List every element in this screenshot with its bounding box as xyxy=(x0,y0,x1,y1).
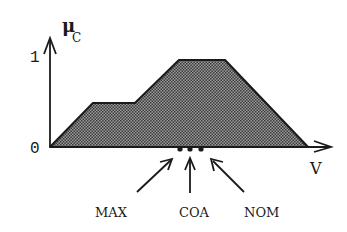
coa-dot xyxy=(187,146,192,151)
membership-diagram: μ C 1 0 V MAX COA NOM xyxy=(0,0,347,232)
membership-area xyxy=(50,60,308,147)
max-label: MAX xyxy=(95,205,128,220)
y-axis-subscript: C xyxy=(72,31,81,45)
max-arrow xyxy=(137,160,171,192)
y-tick-1: 1 xyxy=(30,49,40,67)
nom-dot xyxy=(198,146,203,151)
nom-arrow xyxy=(213,161,244,192)
y-tick-0: 0 xyxy=(30,140,40,158)
nom-label: NOM xyxy=(244,205,279,220)
coa-label: COA xyxy=(179,205,210,220)
x-axis-label: V xyxy=(309,159,322,178)
max-dot xyxy=(177,146,182,151)
